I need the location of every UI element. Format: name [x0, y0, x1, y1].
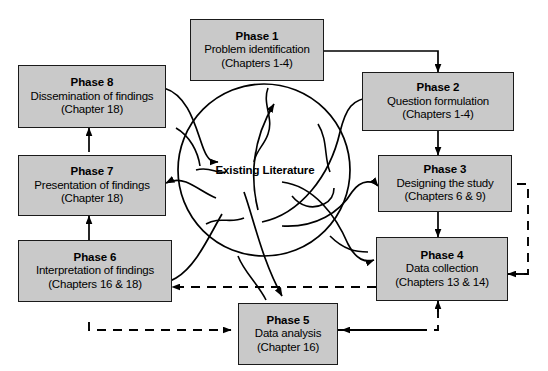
phase-6-title: Phase 6	[74, 251, 117, 265]
phase-7-description: Presentation of findings	[34, 179, 149, 193]
hub-squiggle-6	[176, 128, 200, 166]
phase-7-chapters: (Chapter 18)	[61, 192, 123, 206]
curve-hub-to-phase5	[244, 192, 282, 296]
phase-1-box[interactable]: Phase 1 Problem identification (Chapters…	[190, 19, 324, 81]
existing-literature-label: Existing Literature	[198, 164, 332, 176]
connector-phase1-to-phase2	[324, 51, 438, 72]
phase-4-box[interactable]: Phase 4 Data collection (Chapters 13 & 1…	[376, 237, 508, 301]
phase-2-box[interactable]: Phase 2 Question formulation (Chapters 1…	[362, 72, 514, 131]
phase-5-title: Phase 5	[267, 314, 310, 328]
phase-5-chapters: (Chapter 16)	[257, 341, 319, 355]
phase-1-title: Phase 1	[236, 30, 279, 44]
phase-3-description: Designing the study	[396, 177, 493, 191]
phase-2-description: Question formulation	[387, 95, 489, 109]
phase-8-title: Phase 8	[71, 76, 114, 90]
phase-1-chapters: (Chapters 1-4)	[221, 57, 292, 71]
curve-hub-to-phase3	[282, 182, 378, 226]
curve-hub-to-phase2	[262, 97, 372, 222]
phase-5-description: Data analysis	[255, 327, 321, 341]
connector-phase5-to-phase4-dashed	[338, 303, 438, 330]
phase-3-chapters: (Chapters 6 & 9)	[404, 190, 485, 204]
phase-7-title: Phase 7	[71, 165, 114, 179]
phase-5-box[interactable]: Phase 5 Data analysis (Chapter 16)	[238, 303, 338, 365]
phase-3-title: Phase 3	[424, 163, 467, 177]
phase-6-description: Interpretation of findings	[36, 264, 154, 278]
curve-hub-to-phase1	[254, 104, 274, 210]
research-process-diagram: Phase 1 Problem identification (Chapters…	[0, 0, 548, 371]
phase-7-box[interactable]: Phase 7 Presentation of findings (Chapte…	[18, 155, 166, 216]
phase-4-title: Phase 4	[421, 249, 464, 263]
phase-6-chapters: (Chapters 16 & 18)	[48, 278, 142, 292]
phase-8-description: Dissemination of findings	[31, 90, 154, 104]
phase-3-box[interactable]: Phase 3 Designing the study (Chapters 6 …	[378, 155, 512, 212]
phase-4-description: Data collection	[406, 262, 478, 276]
hub-squiggle-7	[238, 256, 266, 300]
phase-1-description: Problem identification	[204, 43, 310, 57]
hub-squiggle-8	[330, 236, 368, 252]
connector-phase6-to-phase5-dashed	[89, 322, 231, 330]
phase-8-chapters: (Chapter 18)	[61, 103, 123, 117]
phase-8-box[interactable]: Phase 8 Dissemination of findings (Chapt…	[18, 65, 166, 128]
phase-2-chapters: (Chapters 1-4)	[402, 108, 473, 122]
phase-4-chapters: (Chapters 13 & 14)	[395, 276, 489, 290]
phase-2-title: Phase 2	[417, 81, 460, 95]
hub-squiggle-3	[206, 218, 244, 224]
curve-hub-to-phase7	[166, 180, 216, 198]
phase-6-box[interactable]: Phase 6 Interpretation of findings (Chap…	[18, 240, 172, 302]
